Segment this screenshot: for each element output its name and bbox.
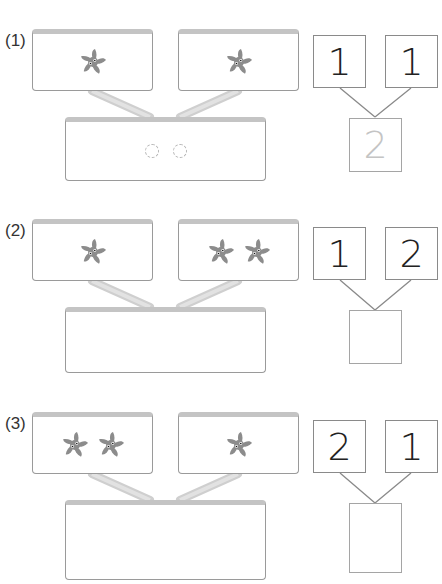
pinwheel-icon [206,237,236,267]
pinwheel-icon [96,430,126,460]
total-group-card[interactable] [65,307,266,373]
problem-label: (2) [5,221,26,241]
number-box-right: 1 [385,420,438,473]
left-group-card [32,219,153,281]
sum-box[interactable] [349,310,402,364]
dashed-circle-placeholder [173,144,187,158]
pinwheel-icon [60,430,90,460]
left-group-card [32,412,153,474]
total-group-card[interactable] [65,500,266,580]
right-group-card [178,29,299,91]
pinwheel-icon [78,47,108,77]
sum-box[interactable]: 2 [349,118,402,172]
problem-label: (1) [5,31,26,51]
problem-1: (1) 1 1 2 [0,29,442,219]
right-group-card [178,412,299,474]
right-group-card [178,219,299,281]
number-box-left: 1 [313,227,366,280]
left-group-card [32,29,153,91]
sum-box[interactable] [349,503,402,573]
pinwheel-icon [242,237,272,267]
pinwheel-icon [224,430,254,460]
dashed-circle-placeholder [145,144,159,158]
pinwheel-icon [224,47,254,77]
number-box-right: 2 [385,227,438,280]
number-box-left: 2 [313,420,366,473]
pinwheel-icon [78,237,108,267]
number-box-left: 1 [313,35,366,88]
problem-3: (3) 2 1 [0,412,442,584]
total-group-card[interactable] [65,117,266,181]
number-box-right: 1 [385,35,438,88]
problem-2: (2) 1 2 [0,219,442,409]
problem-label: (3) [5,414,26,434]
